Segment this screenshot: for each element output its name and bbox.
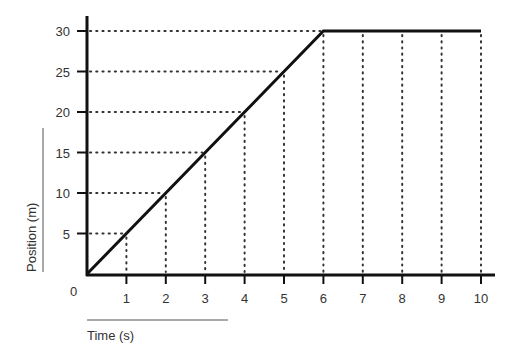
y-tick-label: 20 xyxy=(56,105,70,120)
x-tick-label: 3 xyxy=(202,291,209,306)
axes xyxy=(86,16,495,276)
y-axis-title: Position (m) xyxy=(24,203,39,272)
x-tick-label: 2 xyxy=(162,291,169,306)
x-ticks: 12345678910 xyxy=(123,275,488,306)
x-tick-label: 8 xyxy=(399,291,406,306)
y-tick-label: 10 xyxy=(56,186,70,201)
y-tick-label: 30 xyxy=(56,24,70,39)
y-tick-label: 15 xyxy=(56,146,70,161)
y-tick-label: 25 xyxy=(56,65,70,80)
y-tick-label: 5 xyxy=(63,227,70,242)
x-tick-label: 1 xyxy=(123,291,130,306)
position-time-chart: 12345678910 51015202530 0 Position (m) T… xyxy=(0,0,520,357)
x-tick-label: 9 xyxy=(438,291,445,306)
x-tick-label: 6 xyxy=(320,291,327,306)
y-ticks: 51015202530 xyxy=(56,24,87,242)
dotted-guides xyxy=(90,31,481,272)
x-axis-title: Time (s) xyxy=(87,328,134,343)
x-tick-label: 10 xyxy=(474,291,488,306)
origin-label: 0 xyxy=(70,284,77,299)
x-tick-label: 4 xyxy=(241,291,248,306)
x-tick-label: 5 xyxy=(280,291,287,306)
x-tick-label: 7 xyxy=(359,291,366,306)
